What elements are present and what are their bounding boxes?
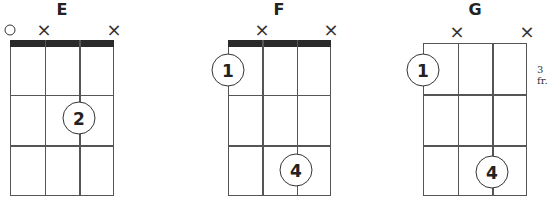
finger-number: 1 [417,60,429,80]
muted-string-icon: × [449,23,464,41]
finger-number: 4 [486,162,498,182]
finger-position: 4 [476,156,509,189]
fret-position-label: 3 fr. [537,64,556,86]
finger-position: 1 [407,54,440,87]
muted-string-icon: × [519,23,534,41]
fret-line [423,145,527,147]
fret-line [423,94,527,96]
string-line [458,43,460,196]
chord-g: G××143 fr. [0,0,556,202]
chord-title: G [468,0,481,20]
